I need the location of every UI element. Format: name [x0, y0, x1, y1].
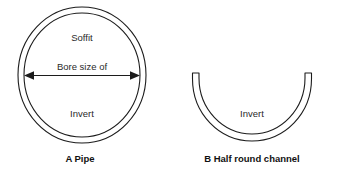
- panel-a-pipe: Soffit Bore size of Invert A Pipe: [18, 7, 146, 164]
- bore-arrowhead-right: [130, 71, 140, 80]
- invert-label-pipe: Invert: [70, 108, 94, 119]
- figure-root: Soffit Bore size of Invert A Pipe Invert…: [0, 0, 340, 180]
- caption-panel-a: A Pipe: [65, 153, 94, 164]
- bore-size-label: Bore size of: [57, 61, 108, 72]
- soffit-label: Soffit: [71, 32, 93, 43]
- diagram-canvas: Soffit Bore size of Invert A Pipe Invert…: [0, 0, 340, 180]
- caption-panel-b: B Half round channel: [204, 153, 300, 164]
- panel-b-half-round-channel: Invert B Half round channel: [193, 73, 312, 164]
- bore-arrowhead-left: [24, 71, 34, 80]
- invert-label-channel: Invert: [240, 108, 264, 119]
